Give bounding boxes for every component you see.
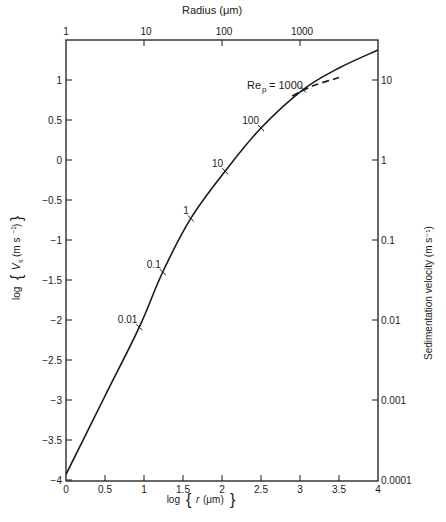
svg-text:(μm): (μm) <box>203 494 224 505</box>
svg-text:(m s: (m s <box>11 238 22 257</box>
svg-text:Re: Re <box>247 79 261 91</box>
left-axis-title: log { V s (m s −1 ) } <box>8 215 25 300</box>
svg-text:{: { <box>8 274 25 280</box>
bottom-axis-title: log { r (μm) } <box>167 491 236 508</box>
x-tick-label: 1 <box>141 484 147 495</box>
x-tick-label: 0 <box>63 484 69 495</box>
curve-mark-label: 0.1 <box>147 259 161 270</box>
x-axis-ticks: 00.511.522.533.54 <box>63 475 381 495</box>
curve-annotations: 0.010.1110100 <box>118 87 306 331</box>
y-tick-label: −1.5 <box>42 275 62 286</box>
y-tick-label: −3 <box>51 395 63 406</box>
y-tick-label: −4 <box>51 475 63 486</box>
x-tick-label: 0.5 <box>98 484 112 495</box>
y-tick-label: 1 <box>56 75 62 86</box>
right-tick-label: 0.1 <box>381 235 395 246</box>
curve-mark-label: 1 <box>183 205 189 216</box>
y-tick-label: −3.5 <box>42 435 62 446</box>
solid-curve <box>66 50 378 474</box>
svg-text:p: p <box>262 85 267 94</box>
right-tick-label: 0.0001 <box>381 475 412 486</box>
top-axis-ticks: 1101001000 <box>63 26 313 46</box>
top-tick-label: 1000 <box>291 26 314 37</box>
curve-mark-label: 10 <box>212 158 224 169</box>
top-axis-title: Radius (μm) <box>182 4 242 16</box>
curve-mark-label: 0.01 <box>118 314 138 325</box>
x-tick-label: 2.5 <box>254 484 268 495</box>
svg-text:}: } <box>230 491 236 508</box>
top-tick-label: 1 <box>63 26 69 37</box>
right-tick-label: 1 <box>381 155 387 166</box>
plot-frame <box>66 40 378 481</box>
top-tick-label: 100 <box>216 26 233 37</box>
svg-text:r: r <box>196 494 200 505</box>
top-tick-label: 10 <box>140 26 152 37</box>
right-tick-label: 0.01 <box>381 315 401 326</box>
sedimentation-chart: 00.511.522.533.54 −4−3.5−3−2.5−2−1.5−1−0… <box>0 0 446 522</box>
svg-text:log: log <box>11 287 22 300</box>
y-tick-label: −2.5 <box>42 355 62 366</box>
svg-text:{: { <box>186 491 192 508</box>
right-axis-title: Sedimentation velocity (m s⁻¹) <box>423 226 434 360</box>
svg-text:): ) <box>11 224 22 227</box>
x-tick-label: 3.5 <box>332 484 346 495</box>
rep-label: Re p = 1000 <box>247 79 303 94</box>
right-tick-label: 10 <box>381 75 393 86</box>
svg-text:log: log <box>167 494 180 505</box>
x-tick-label: 3 <box>297 484 303 495</box>
svg-text:}: } <box>8 215 25 221</box>
y-tick-label: −2 <box>51 315 63 326</box>
y-tick-label: −0.5 <box>42 195 62 206</box>
y-axis-ticks: −4−3.5−3−2.5−2−1.5−1−0.500.51 <box>42 75 72 486</box>
y-tick-label: 0.5 <box>48 115 62 126</box>
svg-text:= 1000: = 1000 <box>269 79 303 91</box>
svg-text:s: s <box>17 259 24 263</box>
y-tick-label: −1 <box>51 235 63 246</box>
data-series <box>66 50 378 474</box>
curve-mark-label: 100 <box>242 115 259 126</box>
y-tick-label: 0 <box>56 155 62 166</box>
right-tick-label: 0.001 <box>381 395 406 406</box>
